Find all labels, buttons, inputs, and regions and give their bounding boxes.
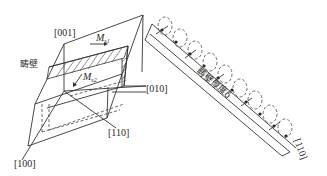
label-110: [110]: [108, 127, 129, 138]
ms2-arrow-icon: [73, 74, 82, 87]
label-110-right: [110]: [292, 137, 310, 161]
label-ms1: Ms1: [95, 32, 110, 44]
spin-chain: [156, 17, 292, 138]
label-wall-thickness: 畴壁厚度δ: [195, 65, 234, 100]
label-ms2: Ms2: [82, 71, 97, 83]
label-domain-wall: 畴壁: [20, 58, 38, 69]
domain-wall-diagram: [001] 畴壁 [010] [110] [100] Ms1 Ms2 畴壁厚度δ…: [0, 0, 327, 176]
crystal-block: [22, 15, 146, 160]
label-010: [010]: [146, 83, 168, 94]
label-001: [001]: [54, 27, 76, 38]
label-100: [100]: [14, 158, 36, 169]
